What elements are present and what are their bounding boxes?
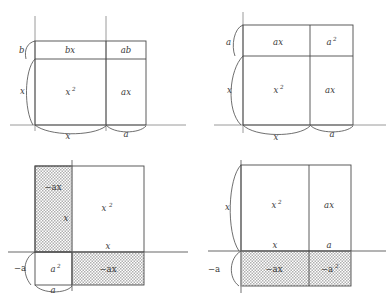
inner-label-x: x xyxy=(273,240,278,250)
algebra-area-model-figure: bx ab x 2 ax b x x a ax a 2 x xyxy=(0,0,392,295)
brace-left-lower-label: x xyxy=(227,85,232,95)
brace-left-neg-a xyxy=(231,251,241,286)
panel-bottom-left: −ax x 2 a 2 −ax x x −a a xyxy=(0,148,196,295)
region-bottom-left-label: x xyxy=(66,87,71,97)
brace-left-lower xyxy=(231,56,243,125)
region-top-right-label: ax xyxy=(324,200,334,210)
brace-bottom-left-label: x xyxy=(66,131,71,141)
upper-rectangle xyxy=(241,165,351,251)
inner-label-vertical: x xyxy=(64,213,69,223)
inner-label-horizontal: x xyxy=(106,241,111,251)
inner-label-a: a xyxy=(326,240,331,250)
brace-bottom-left xyxy=(35,125,106,134)
region-bottom-right-exponent: 2 xyxy=(334,263,339,269)
region-top-left-label: bx xyxy=(65,45,75,55)
panel-bottom-right: x 2 ax −ax −a 2 x a x −a xyxy=(196,148,392,295)
region-top-left-exponent: 2 xyxy=(277,199,282,205)
brace-left-upper-label: b xyxy=(19,45,24,55)
region-upper-strip-shade xyxy=(35,166,72,252)
region-bottom-left-label: −ax xyxy=(266,264,283,274)
region-lower-strip-label: −ax xyxy=(100,264,117,274)
region-bottom-left-exponent: 2 xyxy=(71,86,76,92)
panel-top-right: ax a 2 x 2 ax a x x a xyxy=(196,0,392,147)
region-bottom-right-label: −a xyxy=(321,264,333,274)
brace-left-lower-label: x xyxy=(20,86,25,96)
brace-left-neg-a-label: −a xyxy=(14,263,26,273)
region-lower-left-label: a xyxy=(50,264,55,274)
region-upper-strip-label: −ax xyxy=(45,182,62,192)
region-top-right-label: ab xyxy=(121,45,132,55)
brace-left-lower xyxy=(26,59,35,125)
brace-bottom-right-label: a xyxy=(329,129,334,139)
region-bottom-right-label: ax xyxy=(121,87,131,97)
brace-left-upper xyxy=(233,25,243,56)
brace-left-x-label: x xyxy=(225,202,230,212)
region-bottom-left-label: x xyxy=(274,85,279,95)
region-bottom-right-label: ax xyxy=(325,85,335,95)
brace-bottom-right-label: a xyxy=(123,129,128,139)
region-main-square-exponent: 2 xyxy=(108,202,113,208)
brace-bottom-a-label: a xyxy=(50,285,55,295)
brace-left-neg-a-label: −a xyxy=(208,264,220,274)
region-top-right-label: a xyxy=(326,37,331,47)
region-lower-left-exponent: 2 xyxy=(56,263,61,269)
brace-left-upper xyxy=(25,41,35,59)
region-top-left-label: ax xyxy=(273,37,283,47)
brace-bottom-left-label: x xyxy=(274,132,279,142)
region-top-left-label: x xyxy=(272,200,277,210)
region-main-square-label: x xyxy=(102,203,107,213)
region-top-right-exponent: 2 xyxy=(332,36,337,42)
panel-top-left: bx ab x 2 ax b x x a xyxy=(0,0,196,147)
region-bottom-left-exponent: 2 xyxy=(279,84,284,90)
brace-left-x xyxy=(230,165,241,251)
brace-left-upper-label: a xyxy=(226,37,231,47)
brace-left-neg-a xyxy=(25,252,35,285)
